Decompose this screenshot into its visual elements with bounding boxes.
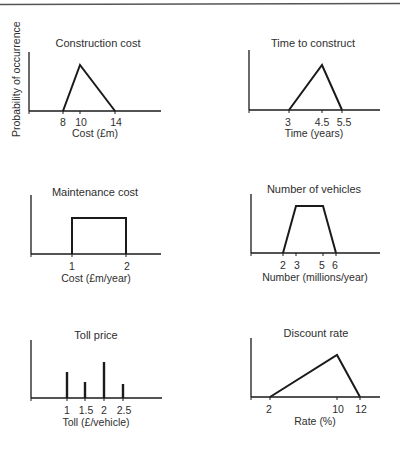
tick-label: 3 xyxy=(294,259,300,271)
panel-title: Discount rate xyxy=(284,327,349,339)
x-axis-label: Toll (£/vehicle) xyxy=(62,416,129,428)
panel-construction-cost: Construction cost 8 10 14 Cost (£m) xyxy=(29,37,161,139)
tick-label: 1.5 xyxy=(79,404,94,416)
tick-label: 8 xyxy=(60,116,66,128)
x-axis-label: Cost (£m) xyxy=(72,127,118,139)
probability-bars xyxy=(67,362,123,398)
x-axis-label: Number (millions/year) xyxy=(262,271,368,283)
x-axis-label: Time (years) xyxy=(285,127,344,139)
panel-maintenance-cost: Maintenance cost 1 2 Cost (£m/year) xyxy=(31,186,161,284)
tick-label: 12 xyxy=(355,403,367,415)
tick-label: 1 xyxy=(69,260,75,272)
tick-label: 10 xyxy=(332,403,344,415)
top-rule xyxy=(0,4,400,5)
panel-title: Maintenance cost xyxy=(52,186,138,198)
distribution-curve xyxy=(283,206,336,253)
panel-title: Time to construct xyxy=(271,37,355,49)
tick-label: 2.5 xyxy=(117,404,132,416)
x-axis-label: Rate (%) xyxy=(294,415,335,427)
panel-title: Toll price xyxy=(74,329,117,341)
panel-toll-price: Toll price 1 1.5 2 2.5 Toll (£/vehicle) xyxy=(31,329,162,428)
y-axis-label: Probability of occurrence xyxy=(10,21,22,137)
panel-time-to-construct: Time to construct 3 4.5 5.5 Time (years) xyxy=(249,37,380,139)
panel-number-of-vehicles: Number of vehicles 2 3 5 6 Number (milli… xyxy=(251,183,380,283)
panel-title: Construction cost xyxy=(56,37,141,49)
distribution-curve xyxy=(63,65,115,111)
tick-label: 6 xyxy=(332,259,338,271)
panel-discount-rate: Discount rate 2 10 12 Rate (%) xyxy=(251,327,380,427)
tick-label: 1 xyxy=(64,404,70,416)
x-axis-label: Cost (£m/year) xyxy=(61,272,130,284)
tick-label: 2 xyxy=(266,403,272,415)
tick-label: 5 xyxy=(319,259,325,271)
distribution-curve xyxy=(289,65,342,110)
distribution-curve xyxy=(72,218,126,254)
panel-title: Number of vehicles xyxy=(267,183,362,195)
tick-label: 2 xyxy=(280,259,286,271)
probability-distributions-figure: Probability of occurrence Construction c… xyxy=(0,0,402,451)
tick-label: 2 xyxy=(101,404,107,416)
distribution-curve xyxy=(270,355,360,397)
tick-label: 2 xyxy=(124,260,130,272)
